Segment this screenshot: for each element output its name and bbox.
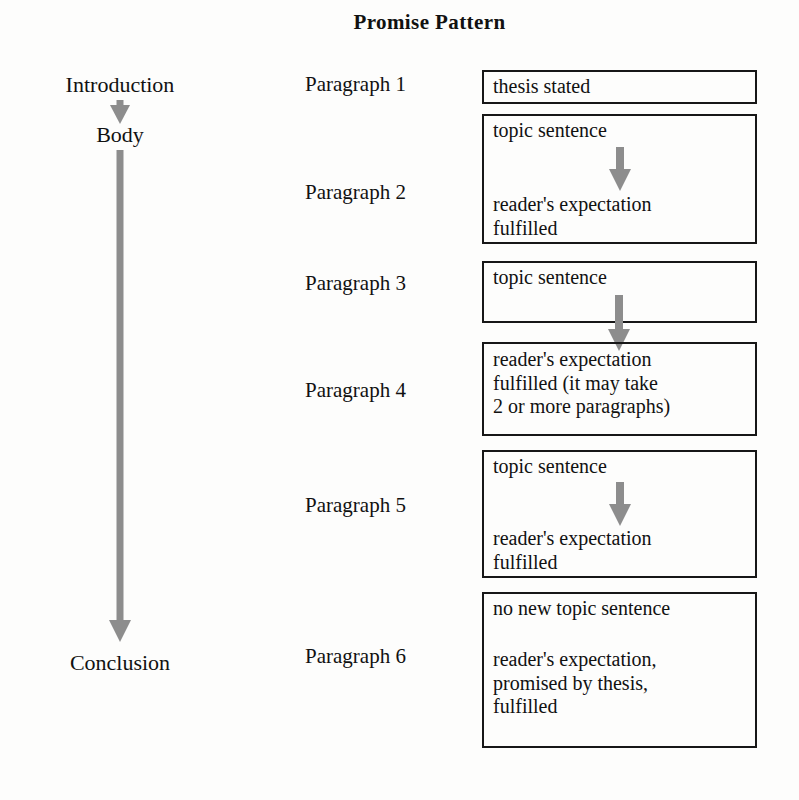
paragraph-label-6: Paragraph 6 bbox=[305, 644, 406, 669]
promise-pattern-diagram: Promise Pattern Introduction Body Conclu… bbox=[0, 0, 799, 800]
box-text-primary: no new topic sentence bbox=[493, 597, 749, 621]
arrow-shaft bbox=[117, 100, 124, 106]
arrow-shaft bbox=[616, 147, 624, 173]
paragraph-label-5: Paragraph 5 bbox=[305, 493, 406, 518]
arrow-down-introduction-to-body bbox=[109, 100, 131, 124]
paragraph-label-1: Paragraph 1 bbox=[305, 72, 406, 97]
paragraph-label-4: Paragraph 4 bbox=[305, 378, 406, 403]
arrow-down-body-to-conclusion bbox=[109, 150, 131, 642]
box-text-secondary: reader's expectation fulfilled bbox=[493, 527, 749, 574]
arrow-head bbox=[109, 620, 131, 642]
arrow-down-inner-paragraph-5 bbox=[609, 482, 631, 526]
box-text-primary: topic sentence bbox=[493, 119, 749, 143]
content-box-paragraph-3: topic sentence bbox=[482, 261, 757, 323]
content-box-paragraph-6: no new topic sentence reader's expectati… bbox=[482, 592, 757, 748]
arrow-down-inner-paragraph-2 bbox=[609, 147, 631, 191]
content-box-paragraph-1: thesis stated bbox=[482, 70, 757, 104]
paragraph-label-2: Paragraph 2 bbox=[305, 180, 406, 205]
arrow-head bbox=[609, 169, 631, 191]
stage-label-introduction: Introduction bbox=[66, 72, 175, 98]
arrow-shaft bbox=[616, 482, 624, 508]
box-text-primary: thesis stated bbox=[493, 75, 749, 99]
box-text-primary: reader's expectation fulfilled (it may t… bbox=[493, 348, 749, 419]
arrow-shaft bbox=[117, 150, 124, 620]
arrow-head bbox=[609, 504, 631, 526]
page-title: Promise Pattern bbox=[0, 10, 799, 35]
stage-label-body: Body bbox=[96, 122, 144, 148]
box-text-secondary: reader's expectation, promised by thesis… bbox=[493, 648, 749, 719]
content-box-paragraph-2: topic sentence reader's expectation fulf… bbox=[482, 114, 757, 244]
content-box-paragraph-5: topic sentence reader's expectation fulf… bbox=[482, 450, 757, 578]
box-text-primary: topic sentence bbox=[493, 455, 749, 479]
stage-label-conclusion: Conclusion bbox=[70, 650, 170, 676]
content-box-paragraph-4: reader's expectation fulfilled (it may t… bbox=[482, 342, 757, 436]
box-text-secondary: reader's expectation fulfilled bbox=[493, 193, 749, 240]
paragraph-label-3: Paragraph 3 bbox=[305, 271, 406, 296]
box-text-primary: topic sentence bbox=[493, 266, 749, 290]
